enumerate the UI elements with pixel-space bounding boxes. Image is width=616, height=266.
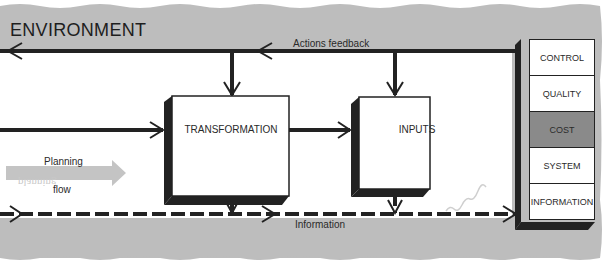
stack-cell-system: SYSTEM	[529, 148, 595, 184]
stack-cell-control: CONTROL	[529, 39, 595, 76]
transformation-label: TRANSFORMATION	[176, 124, 286, 135]
ghost-planning-text: planning	[18, 177, 57, 189]
transformation-box-shadow	[164, 96, 172, 205]
transformation-box	[172, 96, 289, 196]
actions-feedback-label: Actions feedback	[293, 38, 369, 49]
stack-shadow	[515, 39, 521, 230]
inputs-box	[359, 97, 430, 189]
stack-cell-cost: COST	[529, 112, 595, 148]
stack-cell-quality: QUALITY	[529, 76, 595, 112]
inputs-box-shadow	[351, 97, 359, 197]
environment-title: ENVIRONMENT	[10, 20, 146, 41]
planning-label: Planning	[44, 156, 83, 167]
information-flow-label: Information	[295, 219, 345, 230]
stack-cell-information: INFORMATION	[529, 184, 595, 220]
environment-diagram: ENVIRONMENT Actions feedback Information…	[0, 0, 616, 266]
inputs-label: INPUTS	[382, 124, 452, 135]
